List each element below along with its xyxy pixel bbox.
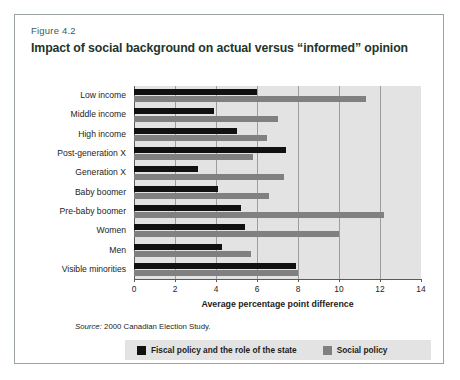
bar-social bbox=[134, 212, 384, 218]
y-axis-label-5: Baby boomer bbox=[21, 187, 126, 197]
bar-fiscal bbox=[134, 186, 218, 192]
source-text: 2000 Canadian Election Study. bbox=[102, 322, 211, 331]
bar-fiscal bbox=[134, 89, 257, 95]
bar-group bbox=[134, 240, 421, 259]
bar-rows bbox=[134, 86, 421, 279]
bar-group bbox=[134, 163, 421, 182]
x-tick-label-10: 10 bbox=[334, 284, 343, 294]
x-tick-label-0: 0 bbox=[132, 284, 137, 294]
x-tick-4 bbox=[216, 279, 217, 282]
bar-social bbox=[134, 154, 253, 160]
bar-fiscal bbox=[134, 147, 286, 153]
bar-social bbox=[134, 96, 366, 102]
bar-social bbox=[134, 193, 269, 199]
y-axis-label-0: Low income bbox=[21, 90, 126, 100]
y-axis-label-9: Visible minorities bbox=[21, 264, 126, 274]
bar-social bbox=[134, 231, 339, 237]
figure-number: Figure 4.2 bbox=[31, 25, 76, 36]
source-prefix: Source: bbox=[75, 322, 102, 331]
bar-social bbox=[134, 174, 284, 180]
bar-group bbox=[134, 202, 421, 221]
x-axis-line bbox=[134, 279, 421, 280]
bar-fiscal bbox=[134, 263, 296, 269]
x-tick-14 bbox=[421, 279, 422, 282]
x-tick-12 bbox=[380, 279, 381, 282]
x-tick-label-6: 6 bbox=[255, 284, 260, 294]
x-tick-label-4: 4 bbox=[214, 284, 219, 294]
legend-item-fiscal: Fiscal policy and the role of the state bbox=[137, 345, 297, 355]
x-tick-label-2: 2 bbox=[173, 284, 178, 294]
y-axis-label-7: Women bbox=[21, 225, 126, 235]
figure-frame: Figure 4.2 Impact of social background o… bbox=[14, 14, 444, 364]
bar-social bbox=[134, 116, 278, 122]
bar-social bbox=[134, 135, 267, 141]
bar-group bbox=[134, 144, 421, 163]
x-tick-8 bbox=[298, 279, 299, 282]
x-tick-label-8: 8 bbox=[296, 284, 301, 294]
bar-fiscal bbox=[134, 205, 241, 211]
bar-fiscal bbox=[134, 128, 237, 134]
y-axis-label-4: Generation X bbox=[21, 167, 126, 177]
bar-group bbox=[134, 105, 421, 124]
bar-group bbox=[134, 260, 421, 279]
legend-swatch-fiscal-icon bbox=[137, 346, 146, 355]
legend-item-social: Social policy bbox=[323, 345, 388, 355]
bar-group bbox=[134, 183, 421, 202]
y-axis-labels: Low incomeMiddle incomeHigh incomePost-g… bbox=[25, 86, 130, 279]
bar-social bbox=[134, 251, 251, 257]
legend-label-social: Social policy bbox=[337, 345, 388, 355]
x-tick-label-12: 12 bbox=[375, 284, 384, 294]
x-tick-2 bbox=[175, 279, 176, 282]
bar-group bbox=[134, 221, 421, 240]
plot-area bbox=[134, 86, 421, 279]
legend-label-fiscal: Fiscal policy and the role of the state bbox=[151, 345, 297, 355]
x-axis-title: Average percentage point difference bbox=[134, 299, 421, 309]
y-axis-label-1: Middle income bbox=[21, 109, 126, 119]
bar-group bbox=[134, 125, 421, 144]
bar-fiscal bbox=[134, 166, 198, 172]
source-note: Source: 2000 Canadian Election Study. bbox=[75, 322, 211, 331]
figure-title: Impact of social background on actual ve… bbox=[31, 41, 431, 55]
bar-fiscal bbox=[134, 224, 245, 230]
x-tick-10 bbox=[339, 279, 340, 282]
y-axis-label-6: Pre-baby boomer bbox=[21, 206, 126, 216]
bar-group bbox=[134, 86, 421, 105]
x-tick-6 bbox=[257, 279, 258, 282]
bar-fiscal bbox=[134, 244, 222, 250]
legend-swatch-social-icon bbox=[323, 346, 332, 355]
x-tick-0 bbox=[134, 279, 135, 282]
y-axis-label-8: Men bbox=[21, 245, 126, 255]
y-axis-label-3: Post-generation X bbox=[21, 148, 126, 158]
bar-fiscal bbox=[134, 108, 214, 114]
chart-legend: Fiscal policy and the role of the state … bbox=[125, 340, 431, 360]
y-axis-label-2: High income bbox=[21, 129, 126, 139]
x-tick-label-14: 14 bbox=[416, 284, 425, 294]
bar-social bbox=[134, 270, 298, 276]
